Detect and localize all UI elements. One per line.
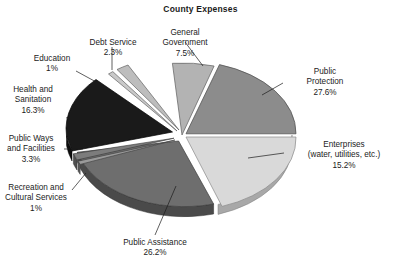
label-public-ways-line1: Public Ways [9, 134, 54, 143]
label-general-government-line2: Government [162, 38, 207, 47]
pie-chart-figure: County Expenses [0, 0, 401, 267]
label-general-government-line1: General [170, 28, 199, 37]
slice-health-and-sanitation[interactable] [66, 80, 172, 152]
label-enterprises-line1: Enterprises [323, 140, 364, 149]
label-recreation-percent: 1% [0, 204, 72, 214]
label-recreation-and-cultural-services: Recreation and Cultural Services 1% [0, 183, 72, 214]
leader-recreation [72, 173, 86, 190]
label-public-assistance: Public Assistance 26.2% [103, 238, 207, 259]
label-education: Education 1% [16, 54, 88, 75]
label-public-assistance-line1: Public Assistance [123, 238, 187, 247]
label-public-protection-line2: Protection [307, 77, 344, 86]
label-education-line1: Education [34, 54, 70, 63]
label-public-protection-line1: Public [314, 67, 336, 76]
label-health-and-sanitation: Health and Sanitation 16.3% [2, 85, 64, 116]
label-public-ways-percent: 3.3% [0, 155, 62, 165]
label-public-ways-and-facilities: Public Ways and Facilities 3.3% [0, 134, 62, 165]
label-debt-service-line1: Debt Service [90, 38, 137, 47]
label-health-and-sanitation-line1: Health and [13, 85, 53, 94]
label-enterprises-line2: (water, utilities, etc.) [308, 150, 380, 159]
label-recreation-line1: Recreation and [8, 183, 64, 192]
label-public-protection-percent: 27.6% [290, 88, 360, 98]
label-public-assistance-percent: 26.2% [103, 248, 207, 258]
label-enterprises: Enterprises (water, utilities, etc.) 15.… [289, 140, 399, 171]
label-enterprises-percent: 15.2% [289, 161, 399, 171]
label-public-protection: Public Protection 27.6% [290, 67, 360, 98]
label-health-and-sanitation-percent: 16.3% [2, 106, 64, 116]
label-health-and-sanitation-line2: Sanitation [15, 95, 51, 104]
label-education-percent: 1% [16, 64, 88, 74]
label-recreation-line2: Cultural Services [5, 193, 67, 202]
label-public-ways-line2: and Facilities [7, 144, 55, 153]
